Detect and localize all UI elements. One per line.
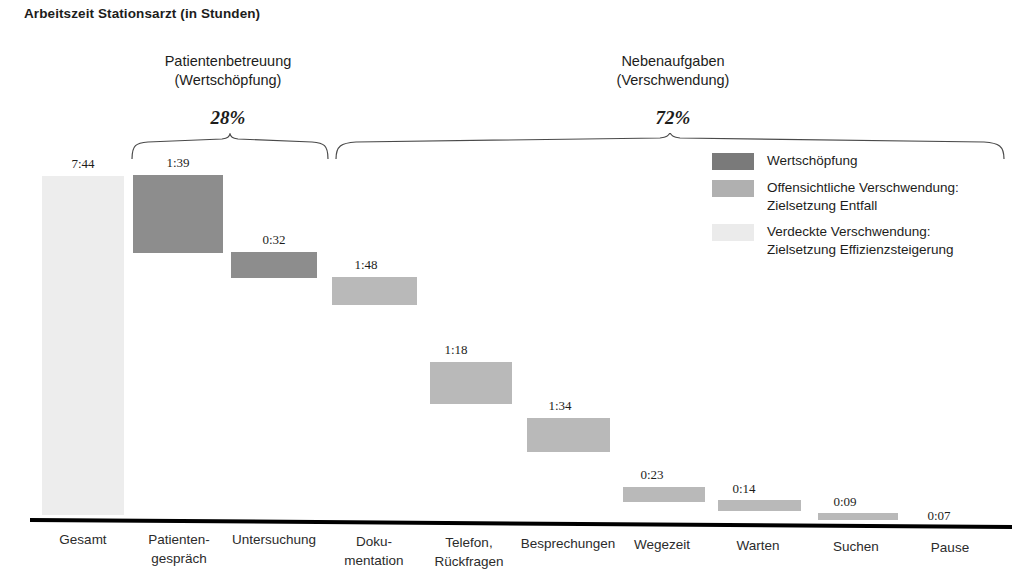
value-label-gesamt: 7:44 <box>43 156 123 172</box>
group-1-subtitle: (Wertschöpfung) <box>140 71 316 90</box>
x-tick-pause: Pause <box>898 538 1002 557</box>
x-axis-line <box>0 505 1020 533</box>
x-tick-suchen: Suchen <box>804 537 908 556</box>
chart-legend: Wertschöpfung Offensichtliche Verschwend… <box>712 152 1012 267</box>
legend-label-verdeckte-verschwendung-line2: Zielsetzung Effizienzsteigerung <box>767 241 954 259</box>
group-2-name: Nebenaufgaben <box>578 52 768 71</box>
value-label-wegezeit: 0:23 <box>612 467 692 483</box>
legend-label-verdeckte-verschwendung-line1: Verdeckte Verschwendung: <box>767 223 954 241</box>
bar-dokumentation <box>332 277 417 305</box>
x-tick-telefon-line2: Rückfragen <box>412 552 526 571</box>
value-label-warten: 0:14 <box>704 481 784 497</box>
value-label-besprechungen: 1:34 <box>520 398 600 414</box>
group-1-percent: 28% <box>178 107 278 129</box>
legend-label-wertschoepfung-line1: Wertschöpfung <box>767 152 858 170</box>
legend-swatch-wertschoepfung <box>712 153 754 170</box>
legend-item-wertschoepfung: Wertschöpfung <box>712 152 1012 170</box>
legend-label-verdeckte-verschwendung: Verdeckte Verschwendung: Zielsetzung Eff… <box>767 223 954 258</box>
x-tick-warten: Warten <box>706 536 810 555</box>
x-tick-wegezeit: Wegezeit <box>610 535 714 554</box>
x-tick-patientengespraech-line2: gespräch <box>122 549 236 568</box>
x-tick-untersuchung: Untersuchung <box>214 530 334 549</box>
bar-telefon <box>430 362 512 404</box>
legend-label-offensichtliche-verschwendung-line2: Zielsetzung Entfall <box>767 197 959 215</box>
group-heading-nebenaufgaben: Nebenaufgaben (Verschwendung) <box>578 52 768 90</box>
legend-item-verdeckte-verschwendung: Verdeckte Verschwendung: Zielsetzung Eff… <box>712 223 1012 258</box>
value-label-telefon: 1:18 <box>416 342 496 358</box>
x-tick-pause-line1: Pause <box>898 538 1002 557</box>
bar-gesamt <box>42 176 124 515</box>
bar-besprechungen <box>527 418 610 452</box>
chart-title: Arbeitszeit Stationsarzt (in Stunden) <box>24 6 260 21</box>
group-2-percent: 72% <box>623 107 723 129</box>
chart-canvas: Arbeitszeit Stationsarzt (in Stunden) Pa… <box>0 0 1020 578</box>
legend-swatch-verdeckte-verschwendung <box>712 224 754 241</box>
x-tick-warten-line1: Warten <box>706 536 810 555</box>
bar-wegezeit <box>623 487 705 502</box>
legend-label-offensichtliche-verschwendung: Offensichtliche Verschwendung: Zielsetzu… <box>767 179 959 214</box>
group-1-name: Patientenbetreuung <box>140 52 316 71</box>
group-2-subtitle: (Verschwendung) <box>578 71 768 90</box>
bar-untersuchung <box>231 252 317 278</box>
bar-patientengespraech <box>133 175 223 253</box>
x-tick-wegezeit-line1: Wegezeit <box>610 535 714 554</box>
x-tick-untersuchung-line1: Untersuchung <box>214 530 334 549</box>
legend-label-offensichtliche-verschwendung-line1: Offensichtliche Verschwendung: <box>767 179 959 197</box>
legend-swatch-offensichtliche-verschwendung <box>712 180 754 197</box>
legend-label-wertschoepfung: Wertschöpfung <box>767 152 858 170</box>
group-heading-patientenbetreuung: Patientenbetreuung (Wertschöpfung) <box>140 52 316 90</box>
x-tick-suchen-line1: Suchen <box>804 537 908 556</box>
value-label-patientengespraech: 1:39 <box>138 155 218 171</box>
legend-item-offensichtliche-verschwendung: Offensichtliche Verschwendung: Zielsetzu… <box>712 179 1012 214</box>
value-label-dokumentation: 1:48 <box>326 257 406 273</box>
value-label-untersuchung: 0:32 <box>234 232 314 248</box>
